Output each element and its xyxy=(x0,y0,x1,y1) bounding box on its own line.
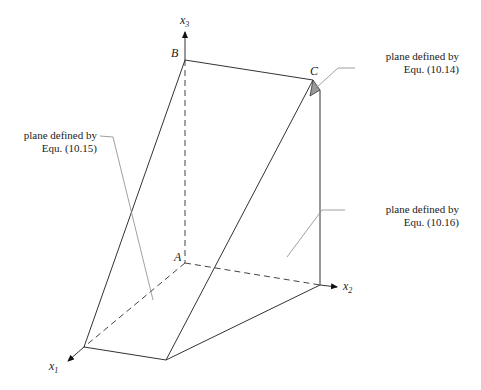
edge-bottom-front xyxy=(84,347,166,360)
x1-axis-label: x1 xyxy=(48,359,58,375)
point-b-label: B xyxy=(171,46,179,60)
annotation-10-16-line1: plane defined by xyxy=(386,203,460,215)
x2-axis-arrow xyxy=(320,285,337,287)
polytope-figure: B C A x3 x1 x2 plane defined by Equ. (10… xyxy=(0,0,481,390)
x2-axis-label: x2 xyxy=(342,279,352,295)
edge-diagonal-c xyxy=(166,80,313,360)
diagram: B C A x3 x1 x2 plane defined by Equ. (10… xyxy=(0,0,481,390)
annotation-10-15-line1: plane defined by xyxy=(24,129,98,141)
point-a-label: A xyxy=(173,250,182,264)
leader-10-16 xyxy=(287,210,345,257)
x3-axis-label: x3 xyxy=(179,13,189,29)
leader-10-14 xyxy=(316,68,355,88)
hidden-edge-a-x2 xyxy=(185,263,320,285)
point-c-label: C xyxy=(310,64,319,78)
edge-bc xyxy=(185,60,313,80)
x1-axis-arrow xyxy=(68,347,84,361)
edge-b-x1 xyxy=(84,60,185,347)
edge-bottom-x2 xyxy=(166,285,320,360)
annotation-10-16-line2: Equ. (10.16) xyxy=(404,216,460,229)
annotation-10-14-line2: Equ. (10.14) xyxy=(404,63,460,76)
leader-10-15 xyxy=(100,136,153,300)
annotation-10-14-line1: plane defined by xyxy=(386,50,460,62)
annotation-10-15-line2: Equ. (10.15) xyxy=(42,142,98,155)
